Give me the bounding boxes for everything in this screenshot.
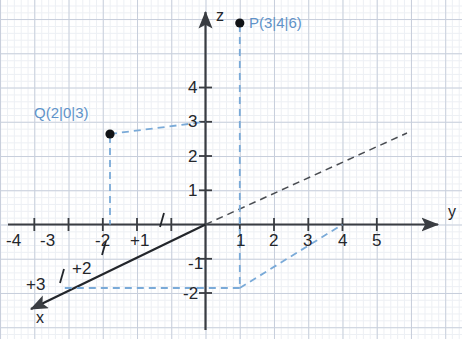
z-tick-label-2: 2 (188, 148, 197, 165)
z-tick-label-3: 3 (188, 113, 197, 130)
x-unit-label-1: +1 (130, 232, 149, 249)
x-axis (31, 225, 206, 310)
x-axis-negative-dashed (206, 133, 408, 225)
y-tick-label-1: 1 (236, 232, 245, 249)
y-tick-label-minus4: -4 (6, 232, 21, 249)
coordinate-system-figure: y z x -4 -3 -2 -1 1 2 3 4 5 1 2 3 4 -2 +… (0, 0, 462, 339)
x-unit-label-2: +2 (72, 260, 91, 277)
point-P-marker (235, 18, 244, 27)
z-tick-label-1: 1 (188, 182, 197, 199)
z-axis-label: z (216, 8, 224, 24)
base-diagonal-dashed (240, 225, 343, 289)
y-tick-label-minus3: -3 (40, 232, 55, 249)
y-axis-label: y (448, 204, 456, 220)
plot-area (0, 0, 462, 339)
y-tick-label-5: 5 (372, 232, 381, 249)
y-tick-label-2: 2 (269, 232, 278, 249)
x-axis-label: x (36, 310, 44, 326)
x-unit-label-3: +3 (26, 276, 45, 293)
point-Q-label: Q(2|0|3) (34, 105, 88, 120)
z-tick-label-minus1: -1 (188, 255, 203, 272)
y-tick-label-minus2: -2 (95, 232, 110, 249)
y-tick-label-4: 4 (338, 232, 347, 249)
z-tick-label-4: 4 (188, 79, 197, 96)
point-P-label: P(3|4|6) (249, 15, 302, 30)
point-Q-marker (105, 129, 114, 138)
z-tick-label-minus2: -2 (183, 285, 198, 302)
y-tick-label-3: 3 (303, 232, 312, 249)
